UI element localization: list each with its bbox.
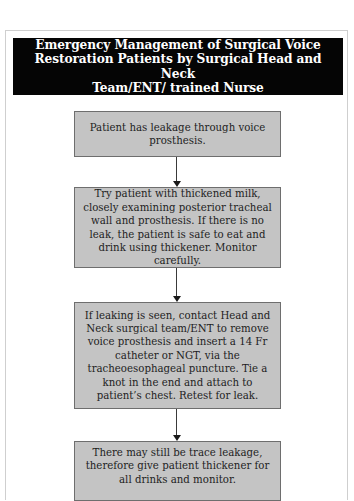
flowchart-title: Emergency Management of Surgical Voice R… [23,38,333,96]
connector-line [176,268,177,296]
step-text: Try patient with thickened milk, closely… [81,187,274,267]
title-line: Restoration Patients by Surgical Head an… [23,52,333,81]
title-line: Emergency Management of Surgical Voice [23,38,333,53]
flowchart-step-thickened-milk-test: Try patient with thickened milk, closely… [74,187,281,268]
step-text: There may still be trace leakage, theref… [81,446,274,486]
connector-line [176,157,177,181]
title-line: Team/ENT/ trained Nurse [23,81,333,96]
connector-line [176,409,177,435]
step-text: If leaking is seen, contact Head and Nec… [81,309,274,403]
flowchart-step-remove-prosthesis: If leaking is seen, contact Head and Nec… [74,302,281,409]
step-text: Patient has leakage through voice prosth… [81,121,274,148]
flowchart-step-leakage-detected: Patient has leakage through voice prosth… [74,111,281,157]
flowchart-step-monitor-trace-leakage: There may still be trace leakage, theref… [74,441,281,501]
flowchart-title-banner: Emergency Management of Surgical Voice R… [13,38,343,95]
